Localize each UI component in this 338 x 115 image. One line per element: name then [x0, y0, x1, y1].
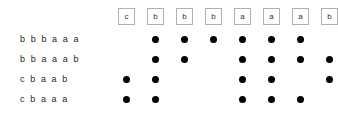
column-header-box: a — [292, 8, 309, 25]
dot-icon — [239, 96, 246, 103]
matrix-cell-filled — [234, 69, 251, 89]
dot-icon — [152, 56, 159, 63]
dot-icon — [239, 76, 246, 83]
matrix-cell-filled — [263, 69, 280, 89]
dot-icon — [297, 96, 304, 103]
dot-icon — [268, 96, 275, 103]
matrix-cell-filled — [147, 49, 164, 69]
matrix-cell-filled — [147, 89, 164, 109]
matrix-cell-filled — [118, 89, 135, 109]
matrix-cell-filled — [263, 29, 280, 49]
row-cells — [118, 29, 338, 49]
matrix-cell-empty — [321, 89, 338, 109]
binary-matrix-figure: cbbbaaab b b b a a ab b a a a bc b a a b… — [0, 0, 338, 115]
column-header-box: a — [234, 8, 251, 25]
row-cells — [118, 49, 338, 69]
matrix-row: c b a a b — [0, 69, 338, 89]
row-cells — [118, 89, 338, 109]
dot-icon — [239, 56, 246, 63]
matrix-cell-empty — [118, 49, 135, 69]
row-cells — [118, 69, 338, 89]
dot-icon — [326, 76, 333, 83]
matrix-cell-filled — [176, 49, 193, 69]
matrix-cell-empty — [205, 89, 222, 109]
column-header-box: c — [118, 8, 135, 25]
dot-icon — [181, 56, 188, 63]
matrix-cell-filled — [234, 29, 251, 49]
matrix-cell-empty — [205, 49, 222, 69]
matrix-cell-filled — [118, 69, 135, 89]
matrix-cell-filled — [321, 69, 338, 89]
dot-icon — [123, 76, 130, 83]
matrix-cell-filled — [205, 29, 222, 49]
matrix-cell-filled — [263, 89, 280, 109]
dot-icon — [268, 36, 275, 43]
matrix-cell-filled — [292, 29, 309, 49]
matrix-cell-filled — [176, 29, 193, 49]
row-label: b b a a a b — [20, 49, 80, 69]
dot-icon — [181, 36, 188, 43]
matrix-row: b b b a a a — [0, 29, 338, 49]
matrix-cell-empty — [205, 69, 222, 89]
row-label: b b b a a a — [20, 29, 80, 49]
matrix-cell-filled — [147, 69, 164, 89]
dot-icon — [239, 36, 246, 43]
dot-icon — [326, 56, 333, 63]
column-header-box: b — [147, 8, 164, 25]
column-header-row: cbbbaaab — [118, 8, 338, 25]
matrix-row: b b a a a b — [0, 49, 338, 69]
dot-icon — [210, 36, 217, 43]
row-label: c b a a a — [20, 89, 69, 109]
column-header-box: b — [176, 8, 193, 25]
matrix-cell-empty — [176, 89, 193, 109]
column-header-box: b — [205, 8, 222, 25]
matrix-cell-empty — [321, 29, 338, 49]
matrix-cell-filled — [147, 29, 164, 49]
matrix-cell-empty — [118, 29, 135, 49]
dot-icon — [268, 56, 275, 63]
matrix-cell-filled — [292, 49, 309, 69]
dot-icon — [297, 56, 304, 63]
column-header-box: a — [263, 8, 280, 25]
matrix-cell-filled — [292, 89, 309, 109]
dot-icon — [123, 96, 130, 103]
matrix-row: c b a a a — [0, 89, 338, 109]
matrix-cell-filled — [234, 89, 251, 109]
column-header-box: b — [321, 8, 338, 25]
dot-icon — [268, 76, 275, 83]
matrix-cell-filled — [321, 49, 338, 69]
matrix-cell-filled — [263, 49, 280, 69]
row-label: c b a a b — [20, 69, 69, 89]
dot-icon — [152, 76, 159, 83]
matrix-cell-filled — [234, 49, 251, 69]
dot-icon — [297, 36, 304, 43]
matrix-cell-empty — [292, 69, 309, 89]
dot-icon — [152, 36, 159, 43]
matrix-cell-empty — [176, 69, 193, 89]
matrix-body: b b b a a ab b a a a bc b a a bc b a a a — [0, 29, 338, 109]
dot-icon — [152, 96, 159, 103]
